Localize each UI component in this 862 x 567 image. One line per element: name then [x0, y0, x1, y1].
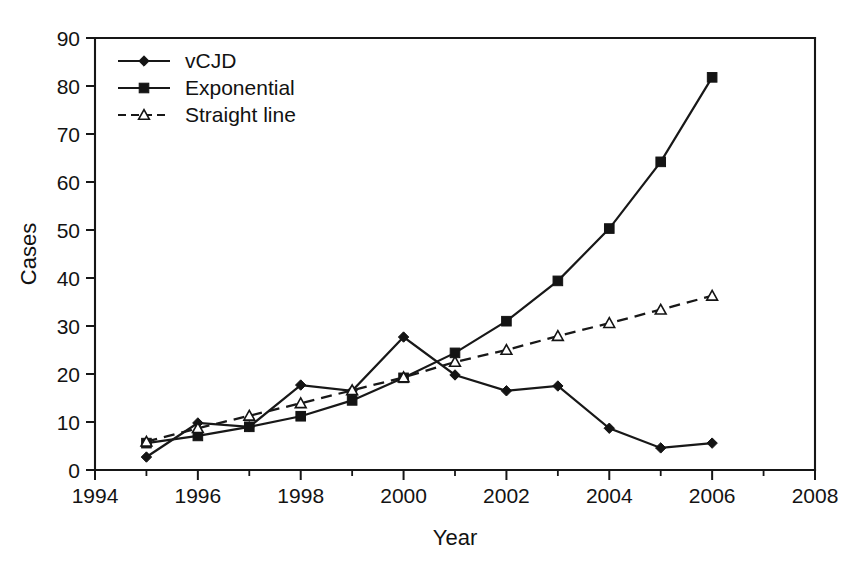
legend-marker-icon: [139, 56, 149, 66]
data-point-marker: [604, 318, 615, 328]
x-tick-label: 2008: [792, 484, 839, 507]
data-point-marker: [707, 290, 718, 300]
series-path: [146, 77, 712, 443]
x-axis-title: Year: [433, 525, 477, 550]
data-point-marker: [707, 438, 717, 448]
data-point-marker: [604, 224, 614, 234]
legend-entry-exponential[interactable]: Exponential: [118, 76, 295, 99]
series-vcjd: [141, 332, 717, 462]
legend-label: Straight line: [185, 103, 296, 126]
series-path: [146, 337, 712, 457]
chart-svg: 0102030405060708090 19941996199820002002…: [0, 0, 862, 567]
y-tick-label: 20: [57, 363, 80, 386]
x-tick-label: 1994: [72, 484, 119, 507]
legend-entry-straight-line[interactable]: Straight line: [118, 103, 296, 126]
series-path: [146, 296, 712, 442]
data-point-marker: [656, 157, 666, 167]
data-point-marker: [347, 396, 357, 406]
data-series-layer: [141, 73, 718, 463]
legend-marker-icon: [139, 83, 149, 93]
chart-figure: 0102030405060708090 19941996199820002002…: [0, 0, 862, 567]
legend-label: vCJD: [185, 49, 236, 72]
y-tick-label: 60: [57, 171, 80, 194]
data-point-marker: [552, 331, 563, 341]
x-tick-label: 2000: [380, 484, 427, 507]
legend-entry-vcjd[interactable]: vCJD: [118, 49, 236, 72]
y-tick-group: 0102030405060708090: [57, 27, 95, 482]
data-point-marker: [501, 345, 512, 355]
legend-label: Exponential: [185, 76, 295, 99]
y-tick-label: 70: [57, 123, 80, 146]
y-tick-label: 40: [57, 267, 80, 290]
data-point-marker: [707, 73, 717, 83]
x-tick-label: 1996: [174, 484, 221, 507]
x-tick-label: 2006: [689, 484, 736, 507]
series-exponential: [142, 73, 717, 448]
y-tick-label: 30: [57, 315, 80, 338]
data-point-marker: [501, 386, 511, 396]
data-point-marker: [553, 276, 563, 286]
y-tick-label: 50: [57, 219, 80, 242]
data-point-marker: [502, 316, 512, 326]
chart-legend: vCJDExponentialStraight line: [118, 49, 296, 126]
x-tick-label: 1998: [277, 484, 324, 507]
y-tick-label: 10: [57, 411, 80, 434]
data-point-marker: [244, 422, 254, 432]
y-tick-label: 90: [57, 27, 80, 50]
y-tick-label: 0: [68, 459, 80, 482]
data-point-marker: [656, 443, 666, 453]
x-tick-label: 2004: [586, 484, 633, 507]
series-straight-line: [141, 290, 718, 446]
x-tick-group: 19941996199820002002200420062008: [72, 470, 839, 507]
y-axis-title: Cases: [16, 223, 41, 285]
data-point-marker: [296, 411, 306, 421]
data-point-marker: [655, 304, 666, 314]
x-tick-label: 2002: [483, 484, 530, 507]
y-tick-label: 80: [57, 75, 80, 98]
